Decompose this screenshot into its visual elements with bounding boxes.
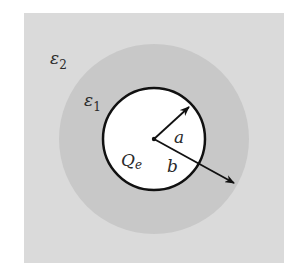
radius-a-label: a [174, 127, 184, 147]
center-point [152, 137, 156, 141]
radius-b-label: b [167, 156, 178, 176]
diagram-canvas: ε2 ε1 Qe a b [0, 0, 301, 275]
